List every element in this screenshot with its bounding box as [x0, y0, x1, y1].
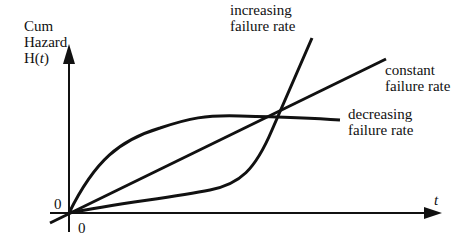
y-label-line1: Cum — [24, 18, 67, 34]
y-label-line3: H(t) — [24, 50, 67, 66]
cumulative-hazard-diagram: Cum Hazard H(t) 0 0 t increasing failure… — [0, 0, 475, 246]
decreasing-curve — [69, 116, 340, 213]
x-axis-arrowhead — [424, 207, 442, 219]
increasing-curve — [69, 38, 312, 213]
increasing-label: increasing failure rate — [230, 2, 295, 34]
x-axis-label: t — [434, 192, 438, 208]
y-label-line2: Hazard — [24, 34, 67, 50]
y-axis-label: Cum Hazard H(t) — [24, 18, 67, 66]
origin-x-label: 0 — [78, 220, 86, 236]
decreasing-label: decreasing failure rate — [348, 106, 413, 138]
constant-curve — [50, 59, 386, 223]
origin-y-label: 0 — [54, 196, 62, 212]
constant-label: constant failure rate — [385, 62, 450, 94]
